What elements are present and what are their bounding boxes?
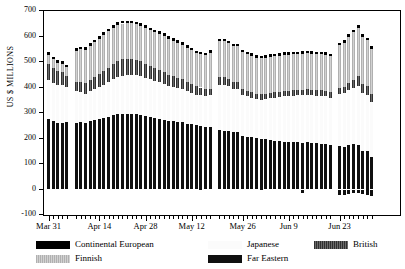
x-tick-minor [256, 216, 257, 219]
bar-segment [218, 39, 221, 42]
bar-segment [126, 59, 129, 75]
bar-segment [163, 36, 166, 72]
bar-stack [329, 11, 332, 215]
bar-segment [130, 23, 133, 59]
bar-segment [121, 76, 124, 114]
bar-segment [232, 44, 235, 47]
bar-segment [153, 68, 156, 81]
bar-stack [186, 11, 189, 215]
bar-segment [144, 64, 147, 78]
bar-segment [343, 93, 346, 147]
x-tick-minor [238, 216, 239, 219]
bar-stack [232, 11, 235, 215]
bar-stack [278, 11, 281, 215]
bar-segment [287, 52, 290, 55]
bar-segment-negative [301, 190, 304, 194]
x-tick-minor [127, 216, 128, 219]
bar-segment [320, 54, 323, 90]
bar-stack [107, 11, 110, 215]
bar-segment [236, 89, 239, 132]
bar-segment [246, 91, 249, 97]
bar-segment [112, 25, 115, 28]
bar-segment [250, 92, 253, 98]
x-tick-minor [233, 216, 234, 219]
legend-swatch-british-icon [314, 241, 348, 249]
bar-segment [301, 51, 304, 54]
legend-item[interactable]: Continental European [36, 240, 154, 249]
bar-segment [102, 118, 105, 189]
bar-segment [116, 61, 119, 77]
bar-segment [283, 142, 286, 190]
bar-segment [255, 94, 258, 100]
bar-stack [227, 11, 230, 215]
bar-segment [158, 31, 161, 34]
legend-item[interactable]: Japanese [208, 240, 279, 249]
bar-segment [250, 53, 253, 56]
bar-segment [296, 52, 299, 55]
x-tick-minor [178, 216, 179, 219]
x-tick-label: Apr 28 [134, 222, 158, 231]
bar-segment [310, 143, 313, 190]
bar-segment [130, 21, 133, 24]
bar-segment [347, 90, 350, 145]
bar-segment [278, 53, 281, 56]
bar-segment [223, 77, 226, 85]
bar-segment [306, 95, 309, 142]
bar-segment [301, 90, 304, 96]
bar-segment [278, 97, 281, 141]
bar-stack [352, 11, 355, 215]
bar-segment [181, 79, 184, 89]
bar-segment [89, 80, 92, 91]
bar-segment [264, 99, 267, 139]
legend-item[interactable]: Far Eastern [208, 254, 288, 263]
x-tick-minor [210, 216, 211, 219]
x-tick-minor [303, 216, 304, 219]
bar-stack [153, 11, 156, 215]
bar-segment [172, 38, 175, 41]
bar-segment [227, 79, 230, 86]
bar-segment [79, 122, 82, 189]
x-tick-minor [261, 216, 262, 219]
x-tick-minor [173, 216, 174, 219]
bar-stack [75, 11, 78, 215]
bar-segment [361, 34, 364, 37]
bar-segment [329, 98, 332, 145]
bar-segment [47, 55, 50, 63]
bar-segment [292, 96, 295, 142]
bar-segment [218, 77, 221, 85]
bar-segment [250, 56, 253, 92]
bar-segment [65, 87, 68, 122]
bar-segment [278, 141, 281, 189]
bar-segment [338, 146, 341, 189]
bar-stack [255, 11, 258, 215]
bar-segment [126, 21, 129, 24]
bar-segment [209, 50, 212, 53]
y-tick-label: 0 [32, 185, 36, 193]
x-tick-minor [284, 216, 285, 219]
x-tick-minor [169, 216, 170, 219]
bar-segment [292, 142, 295, 189]
bar-segment [273, 54, 276, 57]
bar-segment [306, 51, 309, 54]
bar-segment [324, 52, 327, 55]
bar-segment [181, 42, 184, 45]
x-tick-minor [187, 216, 188, 219]
x-tick-minor [358, 216, 359, 219]
bar-segment [315, 96, 318, 143]
bar-stack [310, 11, 313, 215]
bar-segment [250, 137, 253, 189]
legend-item[interactable]: British [314, 240, 378, 249]
legend-item[interactable]: Finnish [36, 254, 102, 263]
bar-segment [366, 38, 369, 41]
bar-segment [264, 55, 267, 58]
bar-segment [102, 85, 105, 118]
bar-segment [366, 151, 369, 189]
bar-segment [260, 100, 263, 139]
bar-segment [218, 41, 221, 77]
bar-segment [190, 50, 193, 84]
bar-segment [144, 78, 147, 116]
bar-segment [79, 92, 82, 122]
x-tick-minor [275, 216, 276, 219]
bar-segment [135, 60, 138, 75]
bar-segment [163, 72, 166, 84]
